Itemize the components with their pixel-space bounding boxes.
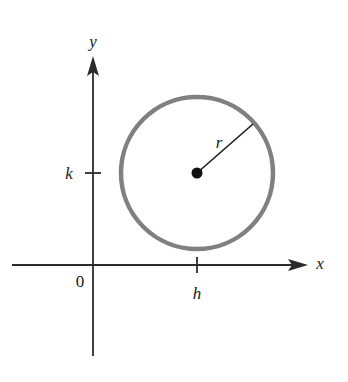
origin-label: 0 xyxy=(76,272,85,291)
h-tick-label: h xyxy=(193,284,202,303)
x-axis-label: x xyxy=(315,254,324,273)
radius-label: r xyxy=(216,133,223,152)
k-tick-label: k xyxy=(65,164,73,183)
y-axis-label: y xyxy=(87,32,97,51)
circle-equation-figure: x y 0 k h r xyxy=(0,0,348,382)
circle-center-dot xyxy=(192,168,203,179)
radius-line xyxy=(197,124,253,173)
figure-canvas: x y 0 k h r xyxy=(0,0,348,382)
